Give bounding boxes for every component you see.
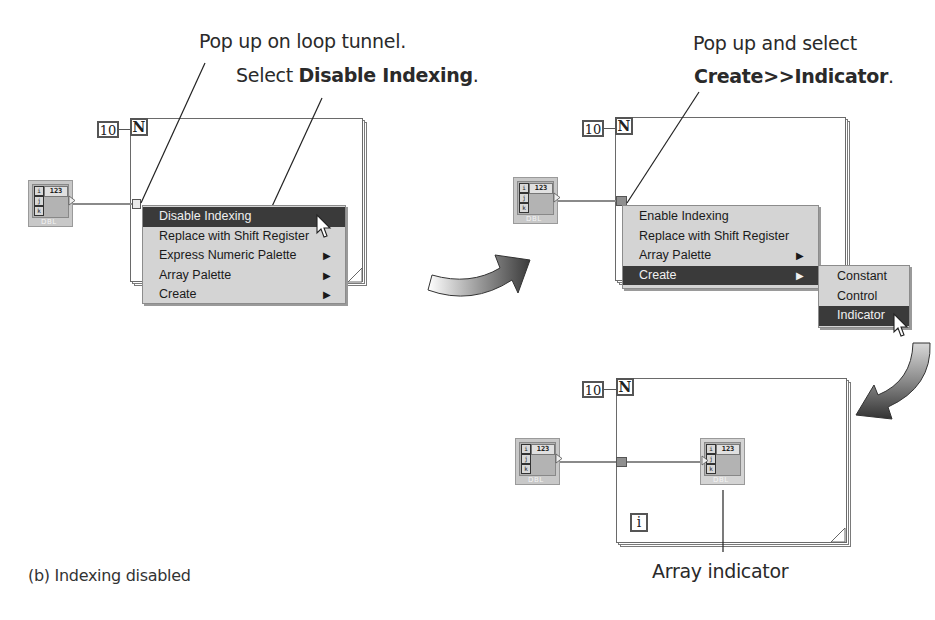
figure-caption: (b) Indexing disabled (28, 566, 191, 585)
array-indicator-label: Array indicator (652, 560, 788, 582)
indicator-leader-line (0, 0, 935, 620)
